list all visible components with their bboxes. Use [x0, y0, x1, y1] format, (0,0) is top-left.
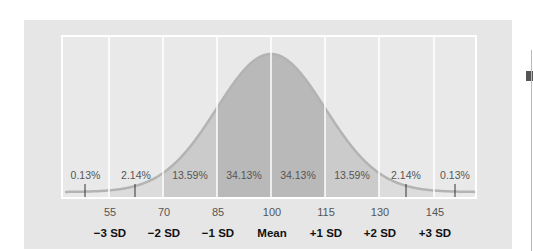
band-percent-label: 13.59%	[172, 169, 208, 181]
band-percent-label: 13.59%	[334, 169, 370, 181]
x-tick-label: 70	[158, 206, 170, 218]
x-tick-label: 100	[263, 206, 281, 218]
band-percent-label: 34.13%	[280, 169, 316, 181]
x-tick-label: 55	[104, 206, 116, 218]
x-tick-label: 130	[371, 206, 389, 218]
sd-label: +2 SD	[364, 227, 396, 239]
edge-divider	[531, 50, 532, 251]
sd-label: +1 SD	[310, 227, 342, 239]
band-percent-label: 2.14%	[391, 169, 421, 181]
sd-label: +3 SD	[419, 227, 451, 239]
x-tick-label: 145	[426, 206, 444, 218]
sd-label: Mean	[257, 227, 286, 239]
band-percent-label: 0.13%	[440, 169, 470, 181]
band-percent-label: 34.13%	[226, 169, 262, 181]
band-percent-label: 0.13%	[71, 169, 101, 181]
x-tick-label: 85	[212, 206, 224, 218]
x-tick-label: 115	[317, 206, 335, 218]
sd-label: −2 SD	[148, 227, 180, 239]
sd-label: −3 SD	[94, 227, 126, 239]
sd-label: −1 SD	[202, 227, 234, 239]
band-percent-label: 2.14%	[121, 169, 151, 181]
